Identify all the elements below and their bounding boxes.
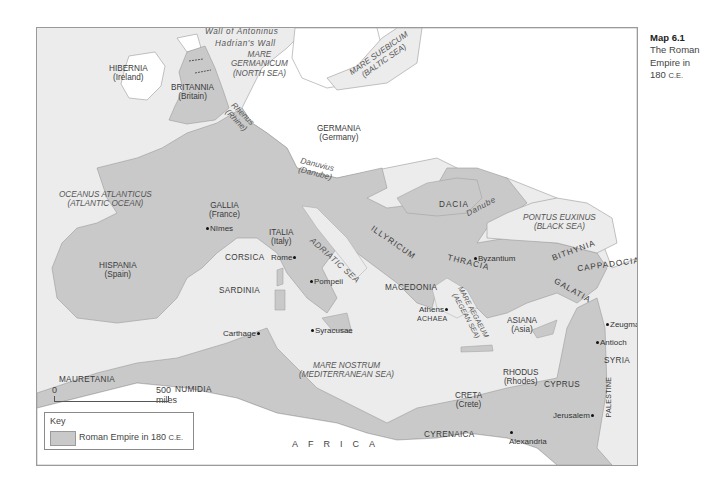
label-rhodus: RHODUS (Rhodes) xyxy=(503,368,538,387)
legend-label: Roman Empire in 180 C.E. xyxy=(79,432,183,442)
label-pontus-euxinus: PONTUS EUXINUS (BLACK SEA) xyxy=(523,213,596,232)
city-carthage: Carthage xyxy=(223,329,261,338)
label-achaea: ACHAEA xyxy=(417,315,448,323)
label-cyprus: CYPRUS xyxy=(544,380,580,389)
label-gallia: GALLIA (France) xyxy=(209,201,240,220)
label-creta: CRETA (Crete) xyxy=(455,391,482,410)
city-athens: Athens xyxy=(419,305,449,314)
label-oceanus-atlanticus: OCEANUS ATLANTICUS (ATLANTIC OCEAN) xyxy=(59,190,152,209)
scale-end: 500 miles xyxy=(156,385,177,405)
label-italia: ITALIA (Italy) xyxy=(269,228,293,247)
label-hadrians-wall: Hadrian's Wall xyxy=(215,39,276,48)
city-dot-icon xyxy=(310,280,313,283)
label-mare-germanicum: MARE GERMANICUM (NORTH SEA) xyxy=(231,50,288,78)
legend-title: Key xyxy=(50,416,66,426)
city-dot-icon xyxy=(596,341,599,344)
label-britannia: BRITANNIA (Britain) xyxy=(171,83,214,102)
caption-line: The Roman xyxy=(650,44,700,55)
island-corsica xyxy=(277,268,283,286)
city-jerusalem: Jerusalem xyxy=(553,411,595,420)
city-antioch: Antioch xyxy=(595,338,627,347)
city-nimes: Nîmes xyxy=(205,224,233,233)
city-dot-icon xyxy=(606,323,609,326)
scale-start: 0 xyxy=(52,385,57,395)
label-germania: GERMANIA (Germany) xyxy=(317,124,361,143)
label-africa: AFRICA xyxy=(292,439,385,449)
city-dot-icon xyxy=(257,332,260,335)
label-mare-nostrum: MARE NOSTRUM (MEDITERRANEAN SEA) xyxy=(299,361,394,380)
label-wall-antoninus: Wall of Antoninus xyxy=(205,27,278,36)
city-dot-icon xyxy=(510,431,513,434)
island-crete xyxy=(461,345,493,352)
city-dot-icon xyxy=(591,414,594,417)
city-alexandria: Alexandria xyxy=(509,428,547,446)
city-byzantium: Byzantium xyxy=(473,254,515,263)
city-dot-icon xyxy=(311,329,314,332)
city-syracusae: Syracusae xyxy=(310,326,353,335)
label-palestine: PALESTINE xyxy=(605,377,613,418)
caption-line: 180 xyxy=(650,69,666,80)
city-dot-icon xyxy=(474,257,477,260)
legend-swatch-empire xyxy=(50,431,76,446)
scale-bar: 0 500 miles xyxy=(54,385,169,405)
label-mauretania: MAURETANIA xyxy=(59,375,115,384)
island-sardinia xyxy=(275,290,285,310)
city-zeugma: Zeugma xyxy=(605,320,638,329)
map-legend: Key Roman Empire in 180 C.E. xyxy=(44,412,194,450)
label-numidia: NUMIDIA xyxy=(175,385,212,394)
label-macedonia: MACEDONIA xyxy=(385,283,437,292)
map-number: Map 6.1 xyxy=(650,32,714,44)
city-dot-icon xyxy=(206,227,209,230)
scale-line xyxy=(54,396,169,402)
label-dacia: DACIA xyxy=(439,200,469,209)
label-asiana: ASIANA (Asia) xyxy=(507,316,537,335)
label-hibernia: HIBERNIA (Ireland) xyxy=(109,64,148,83)
label-sardinia: SARDINIA xyxy=(219,286,260,295)
city-pompeii: Pompeii xyxy=(309,277,343,286)
label-corsica: CORSICA xyxy=(225,253,264,262)
label-cyrenaica: CYRENAICA xyxy=(424,430,474,439)
city-dot-icon xyxy=(293,256,296,259)
city-rome: Rome xyxy=(271,253,297,262)
city-dot-icon xyxy=(445,308,448,311)
caption-era: C.E. xyxy=(669,71,684,80)
map-caption: Map 6.1 The Roman Empire in 180 C.E. xyxy=(650,32,714,81)
caption-line: Empire in xyxy=(650,57,690,68)
label-syria: SYRIA xyxy=(604,356,630,365)
label-hispania: HISPANIA (Spain) xyxy=(99,261,137,280)
